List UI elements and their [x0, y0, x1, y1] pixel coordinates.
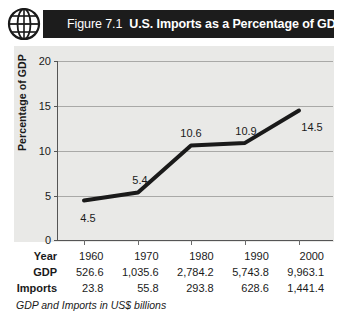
- series-line: [58, 61, 334, 241]
- cell-year-1990: 1990: [224, 248, 279, 264]
- row-label-year: Year: [14, 248, 63, 264]
- ytick-label-15: 15: [39, 100, 51, 112]
- figure-container: Figure 7.1U.S. Imports as a Percentage o…: [0, 0, 345, 320]
- table-row-year: Year 1960 1970 1980 1990 2000: [14, 248, 334, 264]
- point-label-2000: 14.5: [301, 121, 322, 133]
- cell-imports-1990: 628.6: [224, 280, 279, 296]
- cell-year-1960: 1960: [63, 248, 113, 264]
- ytick-label-10: 10: [39, 145, 51, 157]
- cell-gdp-2000: 9,963.1: [279, 264, 334, 280]
- cell-gdp-1990: 5,743.8: [224, 264, 279, 280]
- point-label-1990: 10.9: [235, 125, 256, 137]
- page-title: Figure 7.1U.S. Imports as a Percentage o…: [67, 15, 327, 35]
- globe-icon: [6, 6, 42, 42]
- row-label-imports: Imports: [14, 280, 63, 296]
- ytick-label-0: 0: [45, 234, 51, 246]
- cell-gdp-1980: 2,784.2: [169, 264, 224, 280]
- plot-area: 20 15 10 5 0 4.5 5.4 10.6 10.9 14.5: [57, 61, 333, 241]
- cell-gdp-1970: 1,035.6: [114, 264, 169, 280]
- cell-imports-2000: 1,441.4: [279, 280, 334, 296]
- data-table: Year 1960 1970 1980 1990 2000 GDP 526.6 …: [14, 248, 334, 296]
- cell-gdp-1960: 526.6: [63, 264, 113, 280]
- ytick-label-20: 20: [39, 55, 51, 67]
- point-label-1970: 5.4: [132, 174, 147, 186]
- row-label-gdp: GDP: [14, 264, 63, 280]
- cell-year-1970: 1970: [114, 248, 169, 264]
- figure-title-text: U.S. Imports as a Percentage of GDP: [129, 17, 344, 31]
- y-axis-title: Percentage of GDP: [16, 54, 28, 151]
- point-label-1960: 4.5: [80, 212, 95, 224]
- figure-number: Figure 7.1: [67, 17, 122, 31]
- table-row-imports: Imports 23.8 55.8 293.8 628.6 1,441.4: [14, 280, 334, 296]
- point-label-1980: 10.6: [180, 127, 201, 139]
- footnote: GDP and Imports in US$ billions: [16, 299, 166, 311]
- ytick-label-5: 5: [45, 190, 51, 202]
- cell-imports-1970: 55.8: [114, 280, 169, 296]
- cell-year-1980: 1980: [169, 248, 224, 264]
- table-row-gdp: GDP 526.6 1,035.6 2,784.2 5,743.8 9,963.…: [14, 264, 334, 280]
- cell-year-2000: 2000: [279, 248, 334, 264]
- cell-imports-1960: 23.8: [63, 280, 113, 296]
- cell-imports-1980: 293.8: [169, 280, 224, 296]
